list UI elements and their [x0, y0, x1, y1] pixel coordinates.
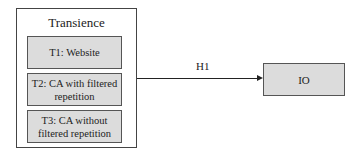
treatment-t3-box: T3: CA without filtered repetition [27, 110, 122, 143]
io-label: IO [298, 74, 310, 86]
io-box: IO [263, 63, 345, 96]
treatment-t2-box: T2: CA with filtered repetition [27, 73, 122, 106]
transience-title: Transience [17, 15, 136, 31]
h1-arrow-line [137, 78, 261, 79]
transience-group-box: Transience T1: Website T2: CA with filte… [16, 8, 137, 148]
treatment-t1-box: T1: Website [27, 36, 122, 69]
h1-edge-label: H1 [196, 60, 209, 72]
treatment-t2-label: T2: CA with filtered repetition [28, 77, 121, 103]
treatment-t3-label: T3: CA without filtered repetition [28, 114, 121, 140]
treatment-t1-label: T1: Website [49, 46, 100, 59]
